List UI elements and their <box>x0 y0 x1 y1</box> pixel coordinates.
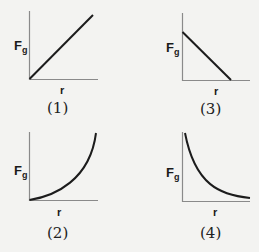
graph-3-axes <box>183 13 251 81</box>
graph-3-caption: (3) <box>200 100 221 118</box>
graph-1-ylabel: Fg <box>14 38 27 55</box>
graph-4-axes <box>183 132 251 202</box>
graph-4-xlabel: r <box>213 206 217 218</box>
graph-4 <box>183 132 251 202</box>
graph-4-ylabel: Fg <box>166 165 179 182</box>
graph-2 <box>30 132 99 201</box>
graph-2-axes <box>30 132 99 201</box>
graph-3-ylabel: Fg <box>166 40 179 57</box>
graph-1 <box>30 11 99 80</box>
graph-4-caption: (4) <box>200 224 221 242</box>
graph-2-xlabel: r <box>57 206 61 218</box>
graph-1-caption: (1) <box>47 99 68 117</box>
graph-3-xlabel: r <box>214 85 218 97</box>
graph-3-curve <box>183 32 232 80</box>
graph-4-curve <box>185 133 250 198</box>
graphs-canvas <box>0 0 259 252</box>
graph-3 <box>183 13 251 81</box>
graph-1-xlabel: r <box>60 84 64 96</box>
graph-2-caption: (2) <box>47 224 68 242</box>
graph-1-curve <box>30 15 94 79</box>
graph-2-ylabel: Fg <box>14 163 27 180</box>
graph-2-curve <box>30 133 97 200</box>
